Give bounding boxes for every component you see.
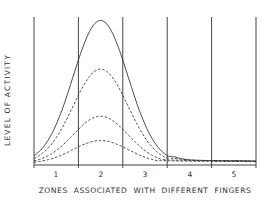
x-axis-label: ZONES ASSOCIATED WITH DIFFERENT FINGERS — [34, 186, 256, 195]
x-tick-3: 3 — [135, 170, 155, 179]
x-tick-2: 2 — [91, 170, 111, 179]
zone-divider-lines — [34, 17, 256, 168]
curve-solid — [34, 20, 256, 161]
y-axis-label: LEVEL OF ACTIVITY — [3, 45, 15, 155]
curve-dashed — [34, 116, 256, 161]
activity-curves — [34, 20, 256, 162]
x-tick-1: 1 — [46, 170, 66, 179]
x-tick-5: 5 — [224, 170, 244, 179]
curve-dashed — [34, 69, 256, 161]
x-tick-4: 4 — [180, 170, 200, 179]
curve-dashed — [34, 141, 256, 163]
